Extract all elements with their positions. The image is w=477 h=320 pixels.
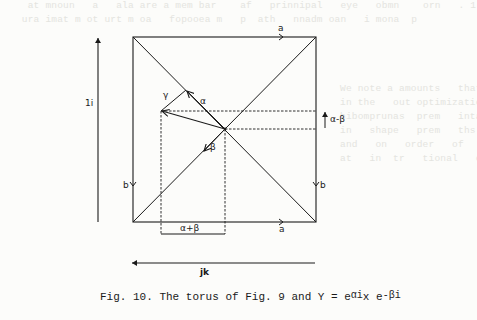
label-top-a: a [278, 24, 284, 33]
caption-exponent-2: -βi [383, 290, 401, 301]
torus-diagram [0, 0, 477, 320]
center-point [224, 128, 227, 131]
label-beta: β [210, 143, 216, 152]
label-bottom-a: a [279, 225, 285, 234]
caption-exponent-1: αi [351, 290, 363, 301]
label-1i: 1i [85, 99, 93, 108]
label-gamma: γ [163, 91, 168, 100]
label-alpha: α [200, 97, 206, 106]
caption-mid: x e [363, 291, 383, 303]
caption-prefix: Fig. 10. The torus of Fig. 9 and Y = e [100, 291, 351, 303]
figure-caption: Fig. 10. The torus of Fig. 9 and Y = eαi… [100, 291, 401, 303]
label-right-b: b [320, 181, 326, 190]
label-alpha-plus-beta: α+β [180, 224, 199, 233]
label-jk: jk [200, 268, 209, 277]
scanned-page: at mnoun a ala are a mem bar af prinnipa… [0, 0, 477, 320]
label-alpha-minus-beta: α-β [330, 115, 345, 124]
label-left-b: b [123, 181, 129, 190]
